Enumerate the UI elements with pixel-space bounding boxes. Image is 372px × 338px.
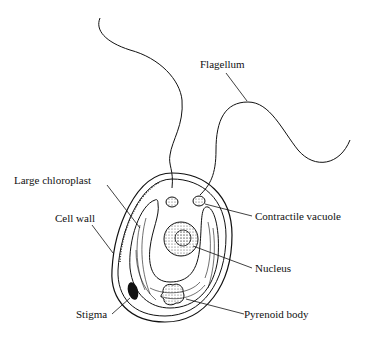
label-stigma: Stigma bbox=[76, 308, 107, 320]
flagellum-left bbox=[99, 18, 182, 188]
pyrenoid-body bbox=[161, 284, 184, 305]
cell-wall-stipple bbox=[120, 182, 160, 262]
nucleolus bbox=[175, 230, 191, 246]
contractile-vacuole-left bbox=[166, 197, 178, 207]
label-contractile-vacuole: Contractile vacuole bbox=[255, 210, 341, 222]
label-nucleus: Nucleus bbox=[255, 262, 291, 274]
cell-diagram: Flagellum Large chloroplast Cell wall Co… bbox=[0, 0, 372, 338]
label-large-chloroplast: Large chloroplast bbox=[14, 174, 91, 186]
flagellum-right bbox=[200, 102, 350, 195]
stigma bbox=[126, 281, 140, 301]
label-flagellum: Flagellum bbox=[200, 58, 245, 70]
label-cell-wall: Cell wall bbox=[55, 212, 95, 224]
contractile-vacuole-right bbox=[193, 196, 205, 206]
label-pyrenoid-body: Pyrenoid body bbox=[244, 308, 309, 320]
